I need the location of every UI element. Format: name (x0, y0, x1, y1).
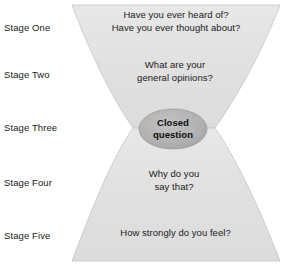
stage-label-three: Stage Three (4, 122, 84, 133)
stage-one-question-line-1: Have you ever heard of? (95, 9, 257, 22)
closed-question-line-1: Closed (139, 117, 207, 129)
stage-label-one: Stage One (4, 22, 84, 33)
stage-one-question-line-2: Have you ever thought about? (95, 22, 257, 35)
stage-label-four: Stage Four (4, 177, 84, 188)
funnel-question-stage-two: What are your general opinions? (110, 59, 240, 84)
stage-three-text: Stage Three (4, 122, 57, 133)
closed-question-label: Closed question (139, 117, 207, 140)
stage-two-question-line-2: general opinions? (110, 72, 240, 85)
funnel-diagram: Stage One Stage Two Stage Three Stage Fo… (0, 0, 300, 278)
stage-five-question-line-1: How strongly do you feel? (103, 227, 248, 240)
stage-one-text: Stage One (4, 22, 50, 33)
funnel-question-stage-four: Why do you say that? (128, 168, 220, 193)
stage-four-question-line-1: Why do you (128, 168, 220, 181)
funnel-question-stage-five: How strongly do you feel? (103, 227, 248, 240)
stage-two-question-line-1: What are your (110, 59, 240, 72)
funnel-question-stage-one: Have you ever heard of? Have you ever th… (95, 9, 257, 34)
stage-two-text: Stage Two (4, 69, 50, 80)
stage-five-text: Stage Five (4, 230, 50, 241)
closed-question-line-2: question (139, 129, 207, 141)
stage-label-two: Stage Two (4, 69, 84, 80)
stage-label-five: Stage Five (4, 230, 84, 241)
stage-four-question-line-2: say that? (128, 181, 220, 194)
stage-four-text: Stage Four (4, 177, 52, 188)
